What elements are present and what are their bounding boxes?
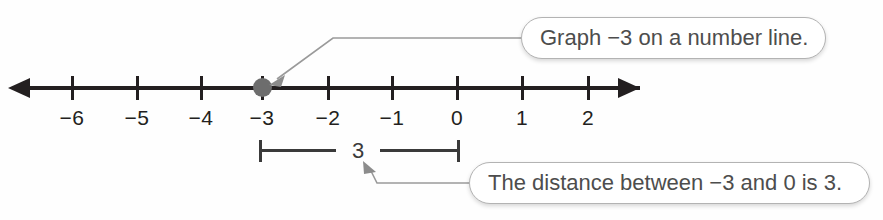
- axis-tick-label-0: −6: [42, 106, 102, 130]
- axis-left-arrow-icon: [8, 78, 30, 98]
- axis-tick-label-5: −1: [362, 106, 422, 130]
- axis-tick-7: [521, 76, 524, 100]
- measurement-bracket-label: 3: [338, 138, 378, 164]
- axis-tick-label-6: 0: [427, 106, 487, 130]
- axis-tick-2: [200, 76, 203, 100]
- axis-tick-1: [136, 76, 139, 100]
- axis-tick-8: [587, 76, 590, 100]
- callout-distance-explanation: The distance between −3 and 0 is 3.: [469, 162, 870, 204]
- axis-tick-4: [327, 76, 330, 100]
- leader-line-distance: [370, 169, 469, 183]
- number-line-figure: −6−5−4−3−2−1012 3 Graph −3 on a number l…: [0, 0, 883, 220]
- leader-line-graph: [277, 38, 521, 79]
- callout-graph-text: Graph −3 on a number line.: [540, 25, 808, 51]
- callout-distance-text: The distance between −3 and 0 is 3.: [488, 170, 842, 196]
- axis-tick-0: [71, 76, 74, 100]
- axis-tick-label-2: −4: [171, 106, 231, 130]
- axis-tick-6: [456, 76, 459, 100]
- bracket-segment-left: [259, 149, 336, 152]
- axis-tick-5: [391, 76, 394, 100]
- axis-tick-label-3: −3: [232, 106, 292, 130]
- bracket-cap-right: [457, 140, 460, 162]
- plotted-point-dot: [253, 78, 272, 97]
- axis-tick-label-1: −5: [107, 106, 167, 130]
- axis-tick-label-7: 1: [492, 106, 552, 130]
- bracket-segment-right: [380, 149, 457, 152]
- callout-graph-instruction: Graph −3 on a number line.: [521, 17, 826, 59]
- axis-tick-label-4: −2: [298, 106, 358, 130]
- axis-right-arrow-icon: [618, 78, 640, 98]
- axis-tick-label-8: 2: [558, 106, 618, 130]
